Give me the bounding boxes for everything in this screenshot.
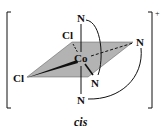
charge-label: + [155, 9, 160, 18]
ligand-top-n: N [77, 12, 85, 24]
ligand-back-cl: Cl [62, 29, 73, 41]
ligand-front-n: N [91, 77, 99, 89]
metal-co: Co [74, 52, 88, 64]
right-bracket [148, 12, 152, 108]
ligand-bottom-n: N [77, 94, 85, 106]
cis-complex-diagram: + N Cl Co N Cl N N cis [0, 0, 163, 131]
isomer-caption: cis [74, 115, 88, 129]
ligand-right-n: N [136, 36, 144, 48]
left-bracket [7, 12, 11, 108]
ligand-left-cl: Cl [13, 72, 24, 84]
